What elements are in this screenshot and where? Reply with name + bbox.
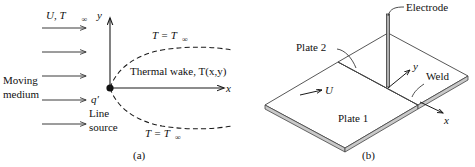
temp-top-label: T = T [152, 29, 178, 41]
moving-medium-line1: Moving [3, 74, 38, 86]
moving-medium-line2: medium [3, 88, 39, 100]
plate-1-label: Plate 1 [338, 112, 368, 124]
panel-b-caption: (b) [362, 149, 375, 162]
weld-label: Weld [426, 70, 449, 82]
y-axis-label-b: y [412, 60, 418, 72]
freestream-label: U, T [46, 9, 66, 21]
line-source-line1: Line [89, 107, 109, 119]
x-axis-label-b: x [443, 114, 449, 126]
velocity-label-b: U [325, 84, 334, 96]
figure-canvas: U, T ∞ y x Moving medium q′ Line source … [0, 0, 475, 167]
freestream-sub: ∞ [82, 15, 88, 24]
temp-bottom-sub: ∞ [175, 133, 181, 142]
y-axis-label-a: y [96, 9, 102, 21]
temp-top-sub: ∞ [182, 35, 188, 44]
electrode-rod [386, 14, 389, 87]
electrode-label: Electrode [406, 1, 448, 13]
inflow-arrows [42, 28, 86, 124]
panel-a-group: U, T ∞ y x Moving medium q′ Line source … [3, 9, 232, 162]
electrode-leader-line [388, 7, 404, 16]
panel-a-caption: (a) [133, 149, 146, 162]
source-strength-label: q′ [91, 93, 100, 105]
x-axis-arrow-b [420, 102, 443, 113]
figure-root: U, T ∞ y x Moving medium q′ Line source … [0, 0, 475, 167]
panel-b-group: Electrode Plate 2 Plate 1 Weld y x U (b) [265, 1, 468, 162]
plate-2-label: Plate 2 [296, 41, 326, 53]
temp-bottom-label: T = T [145, 127, 171, 139]
wake-boundary-lower [110, 88, 232, 129]
thermal-wake-label: Thermal wake, T(x,y) [130, 65, 227, 78]
line-source-line2: source [89, 121, 118, 133]
x-axis-label-a: x [225, 82, 231, 94]
